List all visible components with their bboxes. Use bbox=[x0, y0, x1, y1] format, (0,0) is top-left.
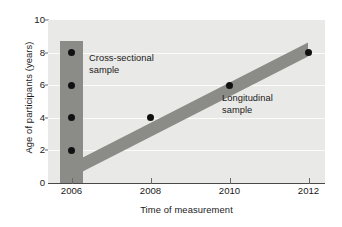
gridline-4 bbox=[48, 118, 325, 119]
annotation-cross-sectional: Cross-sectional sample bbox=[89, 53, 154, 76]
y-axis-title: Age of participants (years) bbox=[23, 13, 34, 183]
x-tick-mark-2010 bbox=[230, 178, 231, 184]
y-tick-label-8: 8 bbox=[5, 48, 45, 58]
y-tick-label-4: 4 bbox=[5, 113, 45, 123]
longitudinal-band bbox=[48, 20, 325, 183]
data-point-2010-6 bbox=[226, 82, 233, 89]
x-tick-label-2012: 2012 bbox=[279, 186, 339, 196]
gridline-6 bbox=[48, 85, 325, 86]
annotation-longitudinal: Longitudinal sample bbox=[222, 93, 273, 116]
y-tick-label-6: 6 bbox=[5, 80, 45, 90]
chart-figure: Age of participants (years) 10 8 6 4 2 0 bbox=[0, 0, 342, 227]
x-tick-mark-2006 bbox=[72, 178, 73, 184]
y-tick-label-0: 0 bbox=[5, 178, 45, 188]
data-point-2006-2 bbox=[68, 147, 75, 154]
x-tick-label-2008: 2008 bbox=[121, 186, 181, 196]
cross-sectional-band bbox=[60, 41, 83, 183]
x-tick-label-2006: 2006 bbox=[42, 186, 102, 196]
x-axis-line bbox=[48, 183, 325, 184]
data-point-2008-4 bbox=[147, 114, 154, 121]
y-tick-label-2: 2 bbox=[5, 146, 45, 156]
gridline-2 bbox=[48, 150, 325, 151]
x-tick-label-2010: 2010 bbox=[200, 186, 260, 196]
data-point-2006-6 bbox=[68, 82, 75, 89]
x-tick-mark-2008 bbox=[151, 178, 152, 184]
data-point-2012-8 bbox=[305, 49, 312, 56]
x-tick-mark-2012 bbox=[309, 178, 310, 184]
x-axis-title: Time of measurement bbox=[48, 204, 325, 215]
y-tick-label-10: 10 bbox=[5, 15, 45, 25]
plot-area bbox=[48, 20, 325, 183]
